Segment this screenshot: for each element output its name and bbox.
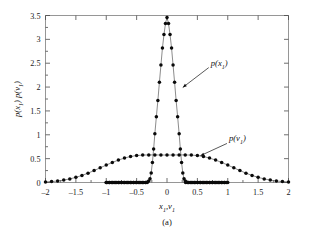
data-point-marker [62, 178, 65, 182]
data-point-marker [156, 99, 160, 103]
x-tick-label: –2 [40, 188, 49, 197]
data-point-marker [135, 154, 139, 158]
data-point-marker [50, 180, 54, 184]
data-point-marker [98, 166, 102, 170]
data-point-marker [208, 156, 212, 160]
data-point-marker [129, 155, 133, 159]
data-point-marker [86, 171, 90, 175]
data-point-marker [177, 153, 181, 157]
data-point-marker [171, 63, 175, 67]
data-point-marker [164, 22, 168, 26]
y-tick-label: 1 [36, 131, 40, 140]
x-tick-label: –1 [101, 188, 110, 197]
y-tick-label: 2.5 [30, 59, 40, 68]
annotation-leader-line [183, 68, 209, 88]
data-point-marker [123, 156, 127, 160]
data-point-marker [74, 176, 78, 180]
curve-annotation-label: p(x1) [210, 58, 228, 70]
data-point-marker [256, 176, 260, 180]
data-point-marker [167, 22, 171, 26]
data-point-marker [105, 163, 109, 167]
data-point-marker [225, 181, 228, 184]
data-point-marker [165, 153, 169, 157]
data-point-marker [161, 46, 165, 50]
y-tick-label: 3.5 [30, 12, 40, 21]
data-point-marker [145, 181, 148, 184]
data-point-marker [287, 180, 291, 184]
data-point-marker [149, 171, 153, 175]
data-point-marker [226, 163, 230, 167]
data-point-marker [244, 171, 248, 175]
x-axis-title: x1,v1 [158, 201, 175, 213]
data-series-group [44, 16, 291, 185]
data-point-marker [153, 153, 157, 157]
y-tick-label: 3 [36, 35, 40, 44]
data-point-marker [196, 154, 200, 158]
data-point-marker [275, 179, 279, 183]
data-point-marker [159, 63, 163, 67]
data-point-marker [220, 161, 224, 165]
data-point-marker [155, 115, 159, 119]
axes-group: –2–1.5–1–0.500.511.5200.511.522.533.5 [30, 12, 290, 197]
data-point-marker [181, 171, 185, 175]
x-tick-label: –1.5 [68, 188, 83, 197]
y-tick-label: 0 [36, 179, 40, 188]
y-axis-title: p(x1) p(v1) [12, 81, 24, 118]
data-point-marker [56, 179, 60, 183]
data-point-marker [111, 161, 115, 165]
series-line [46, 155, 289, 182]
data-point-marker [152, 147, 156, 151]
data-point-marker [158, 81, 162, 85]
data-point-marker [173, 81, 177, 85]
x-tick-label: 0.5 [192, 188, 202, 197]
data-point-marker [238, 169, 242, 173]
figure-panel: –2–1.5–1–0.500.511.5200.511.522.533.5 p(… [0, 0, 312, 235]
figure-caption: (a) [162, 217, 172, 227]
data-point-marker [168, 33, 172, 37]
data-point-marker [159, 153, 163, 157]
data-point-marker [147, 153, 151, 157]
data-point-marker [92, 169, 96, 173]
data-point-marker [151, 161, 155, 165]
x-tick-label: –0.5 [128, 188, 143, 197]
data-point-marker [269, 178, 273, 182]
data-point-marker [165, 16, 169, 20]
data-point-marker [183, 153, 187, 157]
data-point-marker [162, 33, 166, 37]
data-point-marker [176, 115, 180, 119]
data-point-marker [232, 166, 236, 170]
annotations-group: p(x1)p(v1) [183, 58, 246, 156]
data-point-marker [171, 153, 175, 157]
annotation-leader-line [200, 143, 227, 155]
x-tick-label: 1.5 [253, 188, 263, 197]
data-point-marker [281, 180, 285, 184]
x-tick-label: 2 [286, 188, 290, 197]
data-point-marker [179, 147, 183, 151]
y-tick-label: 0.5 [30, 155, 40, 164]
data-point-marker [190, 153, 194, 157]
y-tick-label: 2 [36, 83, 40, 92]
chart-svg: –2–1.5–1–0.500.511.5200.511.522.533.5 p(… [0, 0, 312, 235]
y-tick-label: 1.5 [30, 107, 40, 116]
data-point-marker [174, 99, 178, 103]
data-point-marker [153, 132, 157, 136]
data-point-marker [141, 153, 145, 157]
data-point-marker [180, 161, 184, 165]
data-point-marker [44, 180, 48, 184]
data-point-marker [214, 158, 218, 162]
plot-frame [46, 16, 289, 183]
annotation-arrowhead [200, 153, 204, 156]
data-point-marker [262, 177, 266, 181]
x-tick-label: 1 [226, 188, 230, 197]
data-point-marker [148, 177, 152, 181]
x-tick-label: 0 [165, 188, 169, 197]
data-point-marker [177, 132, 181, 136]
data-point-marker [68, 177, 72, 181]
data-point-marker [170, 46, 174, 50]
data-point-marker [250, 174, 254, 178]
data-point-marker [117, 158, 121, 162]
curve-annotation-label: p(v1) [228, 133, 246, 145]
data-point-marker [80, 174, 84, 178]
